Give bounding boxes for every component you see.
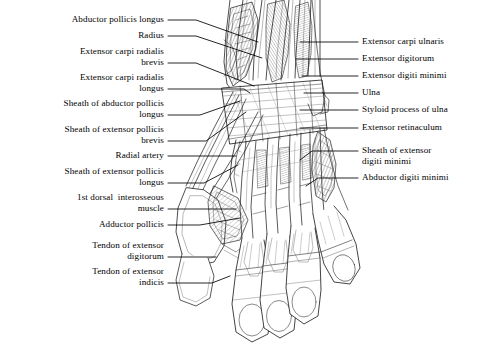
label-abductor-digiti-minimi: Abductor digiti minimi xyxy=(362,172,486,183)
label-line: longus xyxy=(12,177,164,188)
label-line: Extensor carpi radialis xyxy=(28,46,164,57)
label-line: brevis xyxy=(12,135,164,146)
label-line: longus xyxy=(12,109,164,120)
anatomical-plate: Abductor pollicis longusRadiusExtensor c… xyxy=(0,0,488,362)
label-extensor-carpi-ulnaris: Extensor carpi ulnaris xyxy=(362,36,486,47)
label-extensor-carpi-radialis-brevis: Extensor carpi radialisbrevis xyxy=(28,46,164,69)
label-line: Extensor carpi ulnaris xyxy=(362,36,486,47)
label-line: Extensor carpi radialis xyxy=(22,72,164,83)
label-extensor-digiti-minimi: Extensor digiti minimi xyxy=(362,70,486,81)
label-line: Sheath of extensor pollicis xyxy=(12,124,164,135)
label-styloid-process-of-ulna: Styloid process of ulna xyxy=(362,104,486,115)
label-line: Extensor digitorum xyxy=(362,53,486,64)
label-tendon-of-extensor-indicis: Tendon of extensorindicis xyxy=(28,266,164,289)
label-line: longus xyxy=(22,83,164,94)
abductor-digiti-minimi-muscle xyxy=(312,128,348,210)
label-line: Abductor pollicis longus xyxy=(28,14,164,25)
label-line: Extensor digiti minimi xyxy=(362,70,486,81)
label-radial-artery: Radial artery xyxy=(28,150,164,161)
label-line: Radius xyxy=(28,30,164,41)
label-first-dorsal-interosseous-muscle: 1st dorsal interosseousmuscle xyxy=(22,192,164,215)
dorsum-metacarpals-and-tendons xyxy=(240,128,324,238)
label-line: indicis xyxy=(28,277,164,288)
label-line: Extensor retinaculum xyxy=(362,122,486,133)
ring-finger xyxy=(286,226,321,324)
label-line: Radial artery xyxy=(28,150,164,161)
label-line: Styloid process of ulna xyxy=(362,104,486,115)
label-line: Ulna xyxy=(362,87,486,98)
label-sheath-of-extensor-pollicis-brevis: Sheath of extensor pollicisbrevis xyxy=(12,124,164,147)
label-sheath-of-extensor-pollicis-longus: Sheath of extensor pollicislongus xyxy=(12,166,164,189)
label-line: digitorum xyxy=(28,251,164,262)
label-line: Tendon of extensor xyxy=(28,266,164,277)
figure-outline xyxy=(176,0,360,342)
label-extensor-digitorum: Extensor digitorum xyxy=(362,53,486,64)
label-line: brevis xyxy=(28,57,164,68)
label-extensor-carpi-radialis-longus: Extensor carpi radialislongus xyxy=(22,72,164,95)
label-line: muscle xyxy=(22,203,164,214)
label-ulna: Ulna xyxy=(362,87,486,98)
label-sheath-of-extensor-digiti-minimi: Sheath of extensordigiti minimi xyxy=(362,145,486,168)
label-line: Tendon of extensor xyxy=(28,240,164,251)
label-extensor-retinaculum: Extensor retinaculum xyxy=(362,122,486,133)
label-sheath-of-abductor-pollicis-longus: Sheath of abductor pollicislongus xyxy=(12,98,164,121)
label-line: Sheath of extensor pollicis xyxy=(12,166,164,177)
label-tendon-of-extensor-digitorum: Tendon of extensordigitorum xyxy=(28,240,164,263)
label-line: Adductor pollicis xyxy=(28,219,164,230)
label-line: Abductor digiti minimi xyxy=(362,172,486,183)
label-adductor-pollicis: Adductor pollicis xyxy=(28,219,164,230)
label-line: digiti minimi xyxy=(362,156,486,167)
label-line: Sheath of extensor xyxy=(362,145,486,156)
label-line: 1st dorsal interosseous xyxy=(22,192,164,203)
label-radius: Radius xyxy=(28,30,164,41)
label-line: Sheath of abductor pollicis xyxy=(12,98,164,109)
label-abductor-pollicis-longus: Abductor pollicis longus xyxy=(28,14,164,25)
